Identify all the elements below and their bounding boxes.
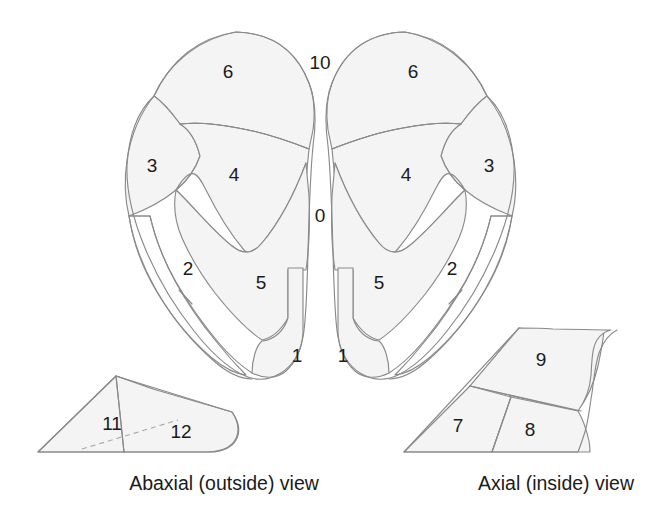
label-abaxial-zone-12: 12 [170,422,191,441]
label-abaxial-zone-11: 11 [102,414,122,433]
label-left-zone-2: 2 [183,259,194,278]
caption-axial-view: Axial (inside) view [478,474,634,494]
caption-abaxial-view: Abaxial (outside) view [129,474,319,494]
label-axial-zone-9: 9 [536,350,547,369]
label-axial-zone-8: 8 [525,420,536,439]
label-left-zone-1: 1 [292,346,303,365]
label-right-zone-3: 3 [484,156,495,175]
label-right-zone-5: 5 [374,273,385,292]
label-right-zone-2: 2 [447,259,458,278]
label-left-zone-5: 5 [256,273,267,292]
label-interdigital-zone-10: 10 [309,53,330,72]
label-right-zone-6: 6 [408,62,419,81]
label-interdigital-zone-0: 0 [315,206,326,225]
claw-zone-drawing [0,0,670,519]
abaxial-view-group [38,376,239,452]
left-claw-group [125,32,315,379]
claw-zone-figure: 6 3 4 2 5 1 10 0 6 3 4 2 5 1 11 12 9 7 8… [0,0,670,519]
label-right-zone-1: 1 [338,346,349,365]
label-right-zone-4: 4 [401,165,412,184]
label-left-zone-6: 6 [223,62,234,81]
label-left-zone-3: 3 [147,156,158,175]
label-axial-zone-7: 7 [453,416,464,435]
right-claw-group [326,32,516,379]
label-left-zone-4: 4 [229,165,240,184]
